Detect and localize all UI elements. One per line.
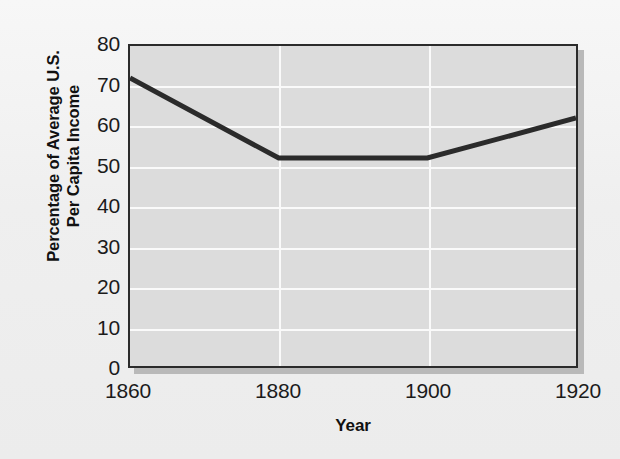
x-axis-tick-labels: 1860188019001920 [128,380,578,408]
x-axis-title: Year [128,416,578,436]
y-axis-title: Percentage of Average U.S. Per Capita In… [3,6,123,306]
y-axis-title-line-1: Percentage of Average U.S. [44,50,62,262]
plot-area [128,44,578,368]
y-axis-title-line-2: Per Capita Income [64,85,82,227]
x-axis-tick-label: 1860 [78,380,178,401]
line-chart-figure: 01020304050607080 Percentage of Average … [0,0,620,459]
x-axis-tick-label: 1880 [228,380,328,401]
y-axis-tick-label: 10 [60,317,120,338]
x-axis-tick-label: 1920 [528,380,620,401]
y-axis-tick-label: 0 [60,357,120,378]
series-polyline [130,78,576,158]
data-series-line [130,46,576,366]
x-axis-tick-label: 1900 [378,380,478,401]
plot-inner [130,46,576,366]
